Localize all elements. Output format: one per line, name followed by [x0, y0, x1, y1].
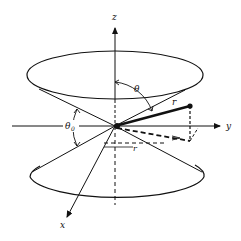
xy-projection: r [104, 106, 198, 153]
lower-cone [30, 126, 204, 197]
z-axis: z [111, 12, 117, 205]
rho-label: r [133, 144, 138, 153]
theta0-subscript: 0 [71, 125, 75, 132]
theta-angle: θ [115, 80, 153, 111]
y-axis-label: y [225, 121, 232, 131]
position-vector: r [114, 97, 193, 129]
theta-label: θ [134, 84, 140, 94]
z-axis-label: z [111, 12, 117, 22]
theta0-angle: θ 0 [63, 109, 80, 146]
r-label: r [172, 97, 177, 107]
cone-diagram: z y x r r θ θ 0 [0, 0, 241, 241]
x-axis-label: x [60, 220, 65, 230]
